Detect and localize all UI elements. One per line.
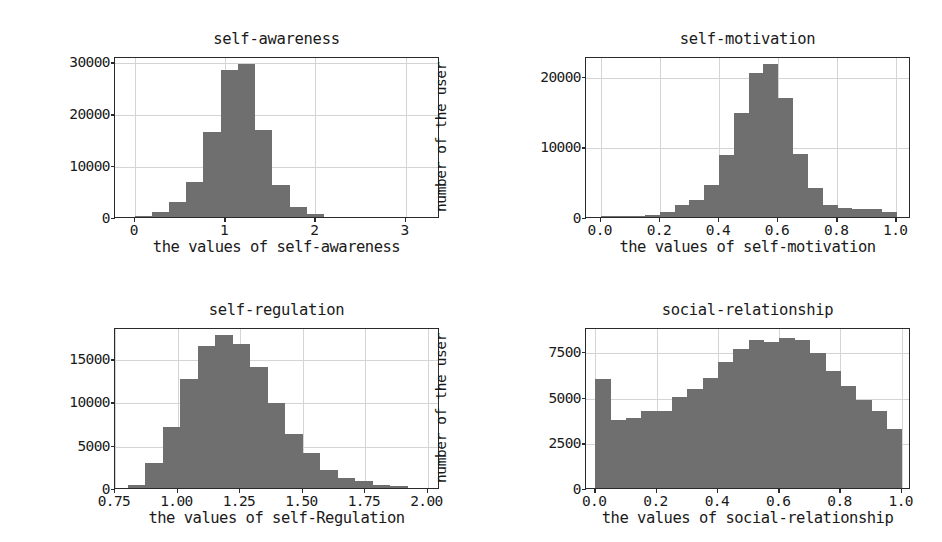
x-tick-label: 1.50 xyxy=(285,494,318,509)
y-tick-label: 20000 xyxy=(24,107,110,122)
histogram-bar xyxy=(822,205,837,217)
histogram-bar xyxy=(719,155,734,217)
histogram-bar xyxy=(645,215,660,217)
y-tick-labels: 0100002000030000 xyxy=(20,57,110,218)
x-tick-label: 0.0 xyxy=(588,223,612,238)
histogram-bar xyxy=(749,340,765,488)
y-tick-mark xyxy=(111,62,115,63)
x-tick-label: 2.00 xyxy=(410,494,443,509)
y-tick-mark xyxy=(111,166,115,167)
x-tick-mark xyxy=(134,218,135,222)
bars-layer xyxy=(586,58,909,217)
y-tick-mark xyxy=(582,489,586,490)
x-tick-mark xyxy=(302,489,303,493)
plot-area xyxy=(114,57,439,218)
histogram-bar xyxy=(169,202,187,217)
x-axis-label: the values of self-Regulation xyxy=(104,509,449,527)
x-tick-mark xyxy=(114,489,115,493)
histogram-bar xyxy=(808,188,823,217)
y-tick-labels: 0250050007500 xyxy=(491,328,581,489)
x-tick-label: 2 xyxy=(310,223,318,238)
histogram-bar xyxy=(221,70,239,217)
histogram-bar xyxy=(675,205,690,217)
histogram-bar xyxy=(355,481,373,488)
histogram-bar xyxy=(660,212,675,217)
histogram-bar xyxy=(630,216,645,217)
histogram-bar xyxy=(198,346,216,488)
y-tick-label: 20000 xyxy=(495,70,581,85)
histogram-bar xyxy=(793,154,808,217)
y-tick-mark xyxy=(582,443,586,444)
y-tick-label: 0 xyxy=(495,482,581,497)
histogram-bar xyxy=(285,434,303,488)
y-tick-mark xyxy=(111,218,115,219)
histogram-bar xyxy=(255,130,273,217)
histogram-bar xyxy=(687,389,703,488)
y-tick-label: 10000 xyxy=(495,140,581,155)
histogram-bar xyxy=(657,411,673,488)
y-tick-mark xyxy=(111,114,115,115)
histogram-bar xyxy=(373,485,391,488)
x-tick-mark xyxy=(427,489,428,493)
x-tick-mark xyxy=(405,218,406,222)
x-tick-label: 0.6 xyxy=(765,223,789,238)
x-tick-label: 1.0 xyxy=(883,223,907,238)
bars-layer xyxy=(586,329,909,488)
bars-layer xyxy=(115,329,438,488)
x-tick-mark xyxy=(600,218,601,222)
x-tick-mark xyxy=(659,218,660,222)
x-axis-label: the values of self-motivation xyxy=(575,238,920,256)
histogram-bar xyxy=(641,411,657,488)
y-tick-label: 7500 xyxy=(495,345,581,360)
y-axis-label: number of the user xyxy=(433,323,449,493)
histogram-bar xyxy=(689,200,704,217)
x-tick-mark xyxy=(717,489,718,493)
x-tick-label: 0.4 xyxy=(705,494,729,509)
y-tick-label: 0 xyxy=(495,211,581,226)
y-tick-labels: 050001000015000 xyxy=(20,328,110,489)
histogram-bar xyxy=(856,400,872,488)
x-axis-label: the values of social-relationship xyxy=(575,509,920,527)
y-tick-label: 30000 xyxy=(24,55,110,70)
histogram-bar xyxy=(152,212,170,217)
y-tick-label: 0 xyxy=(24,211,110,226)
x-tick-label: 1.25 xyxy=(223,494,256,509)
histogram-figure: self-awareness number of the user 010000… xyxy=(0,0,942,542)
histogram-bar xyxy=(763,64,778,217)
x-tick-label: 1.0 xyxy=(889,494,913,509)
plot-area xyxy=(585,328,910,489)
histogram-bar xyxy=(272,185,290,217)
histogram-bar xyxy=(238,64,256,217)
histogram-bar xyxy=(626,418,642,488)
histogram-bar xyxy=(306,214,324,217)
bars-layer xyxy=(115,58,438,217)
x-tick-label: 3 xyxy=(401,223,409,238)
histogram-bar xyxy=(886,429,902,488)
histogram-bar xyxy=(764,342,780,488)
histogram-bar xyxy=(595,379,611,488)
histogram-bar xyxy=(703,378,719,488)
y-tick-mark xyxy=(111,446,115,447)
x-tick-label: 0 xyxy=(130,223,138,238)
histogram-bar xyxy=(163,427,181,488)
chart-panel-self-regulation: self-regulation number of the user 05000… xyxy=(0,271,471,542)
x-tick-mark xyxy=(239,489,240,493)
x-tick-mark xyxy=(177,489,178,493)
y-tick-mark xyxy=(582,147,586,148)
x-tick-mark xyxy=(314,218,315,222)
x-tick-label: 0.8 xyxy=(827,494,851,509)
y-tick-label: 5000 xyxy=(24,439,110,454)
histogram-bar xyxy=(840,386,856,488)
histogram-bar xyxy=(250,367,268,488)
histogram-bar xyxy=(837,208,852,217)
x-tick-label: 0.0 xyxy=(582,494,606,509)
histogram-bar xyxy=(233,344,251,488)
histogram-bar xyxy=(180,379,198,488)
plot-area xyxy=(585,57,910,218)
x-tick-mark xyxy=(778,489,779,493)
x-tick-mark xyxy=(224,218,225,222)
histogram-bar xyxy=(704,185,719,217)
histogram-bar xyxy=(268,403,286,488)
histogram-bar xyxy=(734,113,749,218)
x-tick-mark xyxy=(364,489,365,493)
